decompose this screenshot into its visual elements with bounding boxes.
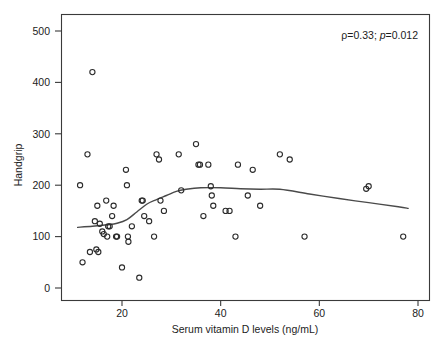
x-axis: 20406080 [116,301,424,320]
scatter-point [401,234,406,239]
y-tick-label: 300 [32,128,50,140]
scatter-point [104,198,109,203]
scatter-point [287,157,292,162]
scatter-point [80,260,85,265]
y-axis: 0100200300400500 [32,25,61,294]
x-tick-label: 60 [313,307,325,319]
lowess-fit-curve [78,188,409,228]
scatter-point [147,219,152,224]
x-tick-label: 20 [116,307,128,319]
scatter-point [125,234,130,239]
x-tick-label: 40 [215,307,227,319]
scatter-point [161,208,166,213]
rho-statistic: ρ=0.33; [341,29,379,41]
y-tick-label: 200 [32,179,50,191]
scatter-point [258,203,263,208]
scatter-points [77,70,405,281]
y-axis-title: Handgrip [12,144,24,187]
scatter-point [201,213,206,218]
p-value: =0.012 [386,29,419,41]
scatter-point [123,167,128,172]
x-axis-title: Serum vitamin D levels (ng/mL) [172,323,318,335]
scatter-point [85,152,90,157]
scatter-point [137,275,142,280]
scatter-point [235,162,240,167]
scatter-point [119,265,124,270]
scatter-point [90,70,95,75]
y-tick-label: 0 [44,282,50,294]
chart-canvas: 0100200300400500 20406080 Handgrip Serum… [0,0,437,359]
scatter-point [277,152,282,157]
scatter-point [142,213,147,218]
y-tick-label: 500 [32,25,50,37]
scatter-point [250,167,255,172]
scatter-point [176,152,181,157]
scatter-point [245,193,250,198]
scatter-point [209,193,214,198]
scatter-point [124,183,129,188]
y-tick-label: 100 [32,230,50,242]
scatter-point [87,249,92,254]
plot-frame [62,15,430,301]
x-tick-label: 80 [412,307,424,319]
scatter-point [156,157,161,162]
scatter-point [110,213,115,218]
correlation-annotation: ρ=0.33; p=0.012 [341,29,418,41]
scatter-point [129,224,134,229]
y-tick-label: 400 [32,76,50,88]
scatter-point [154,152,159,157]
scatter-point [158,198,163,203]
scatter-point [151,234,156,239]
scatter-point [302,234,307,239]
scatter-point [92,219,97,224]
scatter-point [193,141,198,146]
scatter-point [206,162,211,167]
scatter-point [233,234,238,239]
scatter-point [77,183,82,188]
scatter-point [126,239,131,244]
scatter-point [111,203,116,208]
scatter-point [95,203,100,208]
scatter-plot-figure: 0100200300400500 20406080 Handgrip Serum… [0,0,437,359]
scatter-point [211,203,216,208]
